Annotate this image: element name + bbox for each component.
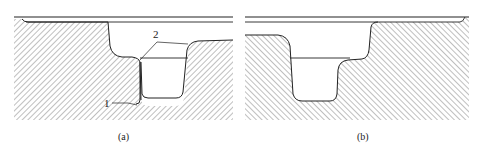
callout-1-label: 1 [104,97,110,109]
caption-b: (b) [357,131,369,143]
panel-b [245,17,469,120]
break-gap [233,0,245,151]
material-b [245,18,469,120]
callout-2-label: 2 [153,28,159,40]
plate-bottom-line-b [245,17,465,22]
caption-a: (a) [118,131,129,143]
panel-a: 2 1 [14,17,233,120]
figure-canvas: 2 1 (a) (b) [0,0,482,151]
